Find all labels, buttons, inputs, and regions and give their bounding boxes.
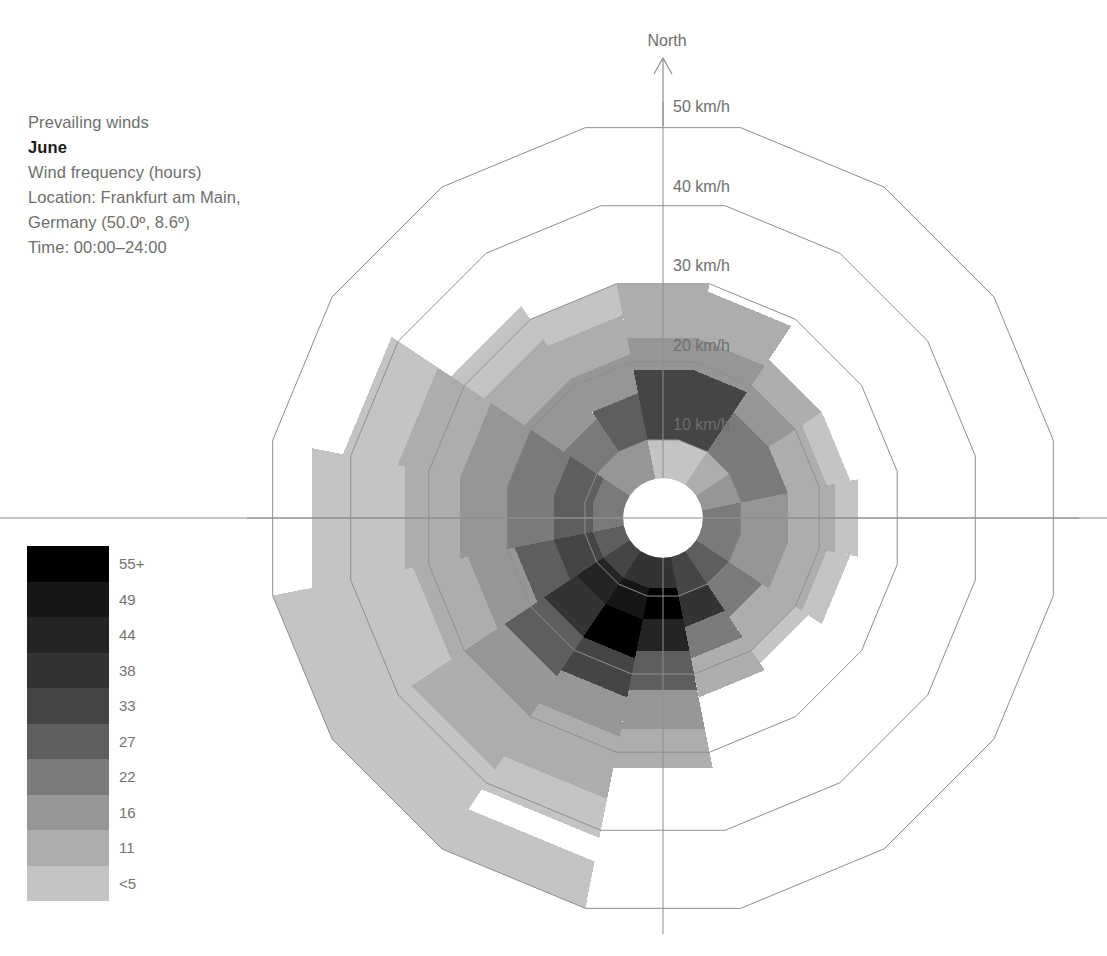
radial-tick-label: 40 km/h: [673, 178, 730, 195]
radial-tick-label: 30 km/h: [673, 257, 730, 274]
wind-rose-chart: 10 km/h20 km/h30 km/h40 km/h50 km/hNorth: [0, 0, 1107, 956]
wind-rose-sectors: [273, 284, 859, 909]
wind-rose-center-hole: [623, 478, 703, 558]
radial-tick-label: 50 km/h: [673, 98, 730, 115]
north-arrow-icon: [654, 58, 672, 126]
radial-tick-label: 20 km/h: [673, 337, 730, 354]
wind-rose-svg: 10 km/h20 km/h30 km/h40 km/h50 km/hNorth: [0, 0, 1107, 956]
radial-tick-label: 10 km/h: [673, 416, 730, 433]
north-label: North: [647, 32, 686, 49]
